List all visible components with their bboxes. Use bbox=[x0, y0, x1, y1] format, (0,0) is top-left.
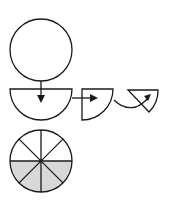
quarter-circle bbox=[82, 89, 113, 120]
center-dot bbox=[39, 159, 43, 163]
whole-circle bbox=[10, 19, 72, 81]
divided-circle bbox=[10, 130, 72, 192]
eighth-circle bbox=[128, 90, 158, 112]
fraction-diagram bbox=[0, 0, 169, 211]
